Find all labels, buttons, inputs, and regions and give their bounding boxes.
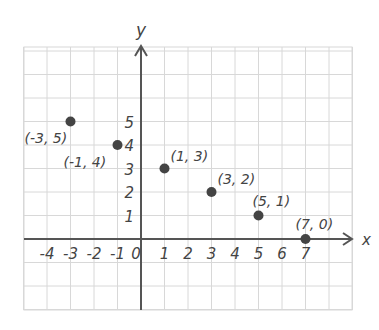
x-axis-label: x (361, 231, 371, 249)
point-label: (-3, 5) (25, 130, 68, 146)
point-label: (-1, 4) (64, 154, 107, 170)
y-tick-label: 4 (124, 137, 134, 155)
y-tick-label: 1 (124, 208, 134, 226)
tick-labels: -4-3-2-10123456712345 (40, 114, 311, 264)
x-tick-label: -3 (63, 245, 78, 263)
x-tick-label: 0 (131, 245, 141, 263)
x-tick-label: -2 (87, 245, 102, 263)
point-label: (1, 3) (171, 148, 209, 164)
x-tick-label: 5 (254, 245, 264, 263)
point-label: (7, 0) (296, 216, 334, 232)
x-tick-label: 4 (230, 245, 240, 263)
coordinate-plane: -4-3-2-10123456712345 (-3, 5)(-1, 4)(1, … (0, 0, 379, 330)
x-tick-label: -4 (40, 245, 55, 263)
y-tick-label: 2 (124, 184, 134, 202)
point-label: (5, 1) (253, 193, 291, 209)
x-tick-label: 3 (207, 245, 217, 263)
data-point (207, 187, 217, 197)
data-point (160, 164, 170, 174)
x-tick-label: -1 (110, 245, 125, 263)
data-point (113, 140, 123, 150)
y-tick-label: 5 (124, 114, 134, 132)
y-axis-label: y (135, 20, 147, 40)
x-tick-label: 6 (277, 245, 287, 263)
x-tick-label: 1 (160, 245, 170, 263)
grid-lines (24, 47, 353, 310)
x-tick-label: 7 (301, 245, 311, 263)
data-point (66, 117, 76, 127)
x-tick-label: 2 (183, 245, 193, 263)
y-tick-label: 3 (124, 161, 134, 179)
point-label: (3, 2) (218, 171, 256, 187)
data-point (254, 211, 264, 221)
data-point (301, 234, 311, 244)
